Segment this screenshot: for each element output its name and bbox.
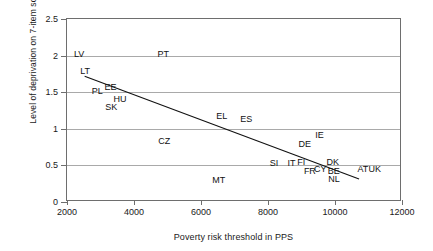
y-axis-tick-label: 0 xyxy=(53,198,58,207)
x-axis-tick xyxy=(67,200,68,205)
x-axis-tick-label: 6000 xyxy=(191,208,211,217)
x-axis-tick xyxy=(335,200,336,205)
x-axis-tick-label: 2000 xyxy=(57,208,77,217)
x-axis-tick-label: 8000 xyxy=(258,208,278,217)
x-axis-tick xyxy=(402,200,403,205)
scatter-chart-figure: Level of deprivation on 7-item scale Pov… xyxy=(0,0,433,251)
x-axis-tick-label: 10000 xyxy=(322,208,347,217)
x-axis-tick xyxy=(268,200,269,205)
x-axis-tick xyxy=(134,200,135,205)
y-axis-tick-label: 0.5 xyxy=(45,161,58,170)
y-axis-tick-label: 1 xyxy=(53,124,58,133)
y-axis-title: Level of deprivation on 7-item scale xyxy=(28,0,38,148)
x-axis-tick xyxy=(201,200,202,205)
y-axis-tick-label: 2.5 xyxy=(45,15,58,24)
x-axis-tick-label: 4000 xyxy=(124,208,144,217)
y-axis-tick-label: 2 xyxy=(53,51,58,60)
x-axis-title: Poverty risk threshold in PPS xyxy=(66,232,401,242)
x-axis-tick-label: 12000 xyxy=(389,208,414,217)
trendline xyxy=(67,19,400,200)
plot-area: 00.511.522.5 20004000600080001000012000 … xyxy=(66,18,401,201)
y-axis-tick-label: 1.5 xyxy=(45,88,58,97)
